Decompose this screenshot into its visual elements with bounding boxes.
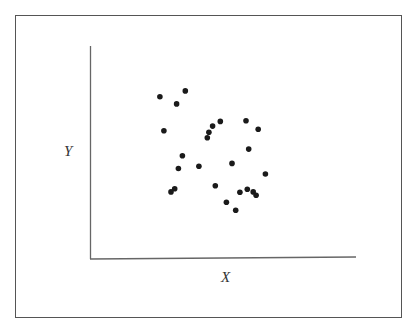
- data-points: [157, 88, 268, 213]
- data-point: [233, 207, 239, 213]
- data-point: [245, 187, 251, 193]
- data-point: [176, 166, 182, 172]
- data-point: [161, 128, 167, 134]
- data-point: [206, 130, 212, 136]
- data-point: [224, 200, 230, 206]
- data-point: [210, 123, 216, 129]
- data-point: [183, 88, 189, 94]
- data-point: [213, 183, 219, 189]
- data-point: [218, 119, 224, 125]
- data-point: [205, 135, 211, 141]
- data-point: [253, 193, 259, 199]
- x-axis-label: X: [221, 269, 230, 286]
- data-point: [237, 190, 243, 196]
- data-point: [157, 94, 163, 100]
- data-point: [229, 161, 235, 167]
- data-point: [243, 118, 249, 124]
- y-axis-label: Y: [64, 143, 72, 160]
- data-point: [196, 164, 202, 170]
- data-point: [263, 171, 269, 177]
- data-point: [180, 153, 186, 159]
- x-axis: [90, 257, 356, 259]
- data-point: [246, 146, 252, 152]
- data-point: [174, 101, 180, 107]
- scatter-plot: [0, 0, 417, 325]
- data-point: [255, 127, 261, 133]
- data-point: [168, 189, 174, 195]
